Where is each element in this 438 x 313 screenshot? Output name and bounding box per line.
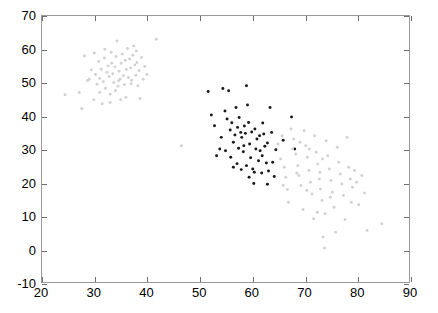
x-tick-mark [147, 16, 148, 21]
data-point [121, 52, 124, 55]
data-point [331, 191, 334, 194]
data-point [363, 191, 366, 194]
data-point [290, 116, 293, 119]
data-point [242, 144, 245, 147]
data-point [292, 138, 295, 141]
series-cluster-lower-right [276, 128, 383, 250]
data-point [242, 150, 245, 153]
data-point [128, 57, 131, 60]
data-point [350, 201, 353, 204]
data-point [234, 106, 237, 109]
data-point [291, 148, 294, 151]
data-point [340, 182, 343, 185]
data-point [282, 184, 285, 187]
data-point [271, 161, 274, 164]
scatter-plot-figure: 2030405060708090 -10010203040506070 [0, 0, 438, 313]
data-point [134, 74, 137, 77]
data-point [102, 80, 105, 83]
data-point [260, 171, 263, 174]
data-point [254, 148, 257, 151]
y-tick-label: 0 [29, 243, 36, 256]
y-tick-mark [404, 117, 409, 118]
data-point [261, 122, 264, 125]
data-point [248, 143, 251, 146]
data-point [215, 154, 218, 157]
data-point [111, 72, 114, 75]
data-point [139, 97, 142, 100]
data-point [98, 91, 101, 94]
data-point [326, 154, 329, 157]
data-point [103, 56, 106, 59]
data-point [339, 172, 342, 175]
data-point [274, 148, 277, 151]
data-point [124, 96, 127, 99]
data-point [229, 129, 232, 132]
data-point [320, 199, 323, 202]
data-point [101, 102, 104, 105]
y-tick-mark [42, 184, 47, 185]
data-point [247, 121, 250, 124]
x-tick-mark [411, 16, 412, 21]
data-point [318, 171, 321, 174]
data-point [135, 49, 138, 52]
y-tick-mark [404, 184, 409, 185]
data-point [346, 136, 349, 139]
data-point [334, 231, 337, 234]
data-point [259, 149, 262, 152]
data-point [98, 77, 101, 80]
data-point [290, 128, 293, 131]
data-point [218, 148, 221, 151]
data-point [210, 114, 213, 117]
data-point [96, 83, 99, 86]
data-point [316, 162, 319, 165]
data-point [117, 85, 120, 88]
y-tick-mark [42, 83, 47, 84]
y-tick-mark [42, 16, 47, 17]
data-point [107, 64, 110, 67]
data-point [223, 110, 226, 113]
y-tick-label: 30 [22, 143, 36, 156]
data-point [267, 169, 270, 172]
data-point [380, 222, 383, 225]
y-tick-mark [42, 251, 47, 252]
data-point [122, 74, 125, 77]
data-point [110, 51, 113, 54]
data-point [229, 156, 232, 159]
data-point [344, 218, 347, 221]
y-tick-mark [404, 16, 409, 17]
data-point [276, 143, 279, 146]
data-point [322, 236, 325, 239]
y-tick-label: 10 [22, 210, 36, 223]
data-point [318, 177, 321, 180]
data-point [295, 171, 298, 174]
data-point [123, 83, 126, 86]
data-point [140, 56, 143, 59]
y-tick-mark [404, 217, 409, 218]
data-point [353, 169, 356, 172]
data-point [118, 70, 121, 73]
data-point [130, 82, 133, 85]
x-tick-mark [411, 277, 412, 282]
data-point [120, 62, 123, 65]
data-point [213, 124, 216, 127]
data-point [315, 151, 318, 154]
x-tick-label: 40 [139, 286, 153, 299]
data-point [265, 161, 268, 164]
data-point [304, 144, 307, 147]
data-point [329, 196, 332, 199]
data-point [245, 164, 248, 167]
data-point [83, 54, 86, 57]
y-tick-mark [404, 251, 409, 252]
x-tick-mark [42, 277, 43, 282]
x-tick-mark [306, 277, 307, 282]
data-point [257, 159, 260, 162]
data-point [333, 206, 336, 209]
x-tick-label: 60 [245, 286, 259, 299]
data-point [119, 98, 122, 101]
data-point [78, 91, 81, 94]
x-tick-mark [306, 16, 307, 21]
data-point [64, 93, 67, 96]
x-tick-label: 30 [86, 286, 100, 299]
data-point [115, 39, 118, 42]
x-tick-mark [253, 277, 254, 282]
